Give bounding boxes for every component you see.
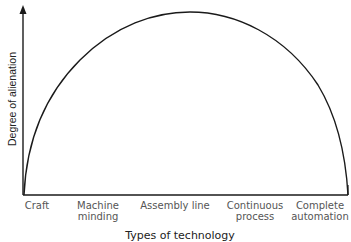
tick-complete-automation: Complete automation bbox=[288, 200, 351, 222]
x-axis-label: Types of technology bbox=[100, 229, 260, 242]
y-axis-label: Degree of alienation bbox=[6, 34, 20, 164]
y-axis-arrow-icon bbox=[20, 5, 27, 14]
alienation-curve bbox=[24, 12, 348, 195]
tick-machine-minding: Machine minding bbox=[68, 200, 128, 222]
tick-assembly-line: Assembly line bbox=[134, 200, 216, 211]
tick-continuous-process: Continuous process bbox=[220, 200, 290, 222]
tick-craft: Craft bbox=[14, 200, 60, 211]
